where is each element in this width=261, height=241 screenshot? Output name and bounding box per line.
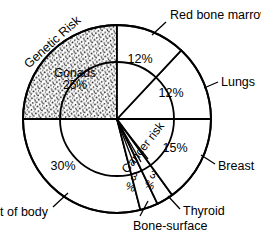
label-gonads-value: 25% — [63, 78, 87, 92]
callout-thyroid: Thyroid — [183, 204, 225, 218]
leader-lungs — [204, 82, 218, 88]
callout-bone-surface: Bone-surface — [133, 219, 207, 233]
callout-breast: Breast — [218, 159, 255, 173]
leader-breast — [201, 155, 215, 164]
callout-rest-of-body: Rest of body — [0, 205, 49, 219]
leader-red-bone-marrow — [152, 22, 166, 35]
value-lungs: 12% — [158, 86, 183, 100]
leader-thyroid — [168, 196, 180, 209]
callout-red-bone-marrow: Red bone marrow — [170, 8, 261, 22]
pie-chart-svg: 12% 12% 15% 30% 3 % 3 % Gonads 25% Genet… — [0, 0, 261, 241]
value-rest-of-body: 30% — [50, 159, 75, 173]
callout-lungs: Lungs — [221, 75, 255, 89]
value-breast: 15% — [162, 141, 187, 155]
value-red-bone-marrow: 12% — [127, 52, 152, 66]
pie-chart-figure: 12% 12% 15% 30% 3 % 3 % Gonads 25% Genet… — [0, 0, 261, 241]
